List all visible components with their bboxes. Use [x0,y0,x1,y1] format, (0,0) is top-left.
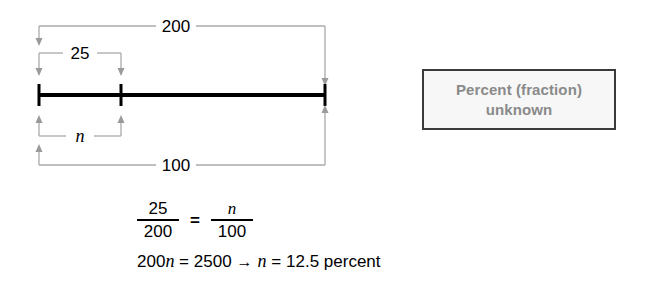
fraction-right-bar [211,219,253,221]
arrowhead-up-n-left [36,115,43,123]
fraction-left-denominator: 200 [141,222,175,241]
fraction-left: 25 200 [137,199,179,241]
solution-coefficient: 200 [137,252,165,271]
number-line-diagram: 200 25 [0,0,360,185]
right-arrow-icon: → [232,253,258,271]
fraction-left-numerator: 25 [146,199,171,218]
solution-result: 12.5 percent [286,252,381,271]
arrowhead-up-n-right [118,115,125,123]
fraction-right-denominator: 100 [215,222,249,241]
main-number-line [38,84,326,106]
solution-equation: 200n = 2500→n = 12.5 percent [0,251,646,272]
dimension-200-label: 200 [162,17,190,36]
dimension-25-label: 25 [71,44,90,63]
fraction-left-bar [137,219,179,221]
dimension-100-label: 100 [162,156,190,175]
dimension-n: n [36,115,125,146]
proportion-equals-sign: = [190,211,200,231]
arrowhead-up-100-left [36,144,43,152]
dimension-25: 25 [36,44,125,76]
solution-equals-1: = [179,252,189,271]
solution-variable-1: n [165,251,174,271]
figure-root: 200 25 [0,0,646,290]
arrowhead-down-25-left [36,68,43,76]
fraction-right-numerator: n [225,199,240,218]
proportion-equation: 25 200 = n 100 [0,193,646,247]
arrowhead-down-25-right [118,68,125,76]
solution-variable-2: n [258,251,267,271]
arrowhead-up-100-right [322,105,329,113]
callout-box-label: Percent (fraction) unknown [456,80,582,118]
dimension-n-label: n [76,126,85,146]
solution-equals-2: = [271,252,281,271]
arrowhead-down-200-left [36,38,43,46]
solution-product: 2500 [194,252,232,271]
fraction-right: n 100 [211,199,253,241]
callout-box: Percent (fraction) unknown [422,69,616,130]
equation-block: 25 200 = n 100 200n = 2500→n = 12.5 perc… [0,193,646,272]
